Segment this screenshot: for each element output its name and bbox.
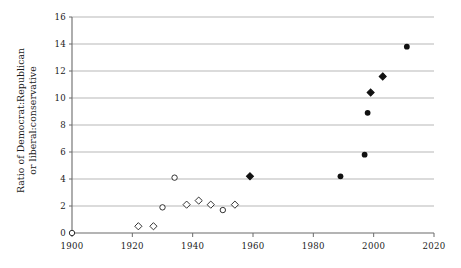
y-tick-label: 6 (44, 147, 66, 157)
series-open-circle (69, 175, 225, 236)
x-tick-label: 1940 (170, 241, 216, 251)
data-point (365, 110, 371, 116)
data-point (150, 223, 157, 230)
data-point (69, 230, 74, 235)
data-point (367, 89, 374, 96)
scatter-chart: Ratio of Democrat:Republican or liberal:… (0, 0, 461, 268)
x-tick-label: 1980 (290, 241, 336, 251)
x-tick-label: 2000 (351, 241, 397, 251)
y-tick-label: 10 (44, 93, 66, 103)
y-tick-label: 0 (44, 228, 66, 238)
series-open-diamond (135, 197, 239, 230)
plot-area (0, 0, 461, 268)
data-point (183, 201, 190, 208)
data-point (135, 223, 142, 230)
y-tick-label: 2 (44, 201, 66, 211)
data-point (195, 197, 202, 204)
gridlines (72, 17, 434, 206)
data-point (207, 201, 214, 208)
x-tick-label: 1900 (49, 241, 95, 251)
x-tick-label: 1920 (109, 241, 155, 251)
data-point (172, 175, 177, 180)
data-point (220, 207, 225, 212)
data-point (404, 44, 410, 50)
data-point (231, 201, 238, 208)
data-point (379, 73, 386, 80)
y-tick-label: 4 (44, 174, 66, 184)
y-tick-label: 14 (44, 39, 66, 49)
y-tick-label: 12 (44, 66, 66, 76)
y-tick-label: 16 (44, 12, 66, 22)
data-point (338, 173, 344, 179)
series-filled-circle (338, 44, 410, 179)
data-point (160, 205, 165, 210)
data-point (362, 152, 368, 158)
axes (69, 17, 434, 237)
y-tick-label: 8 (44, 120, 66, 130)
series-filled-diamond (247, 73, 387, 180)
x-tick-label: 2020 (411, 241, 457, 251)
x-tick-label: 1960 (230, 241, 276, 251)
